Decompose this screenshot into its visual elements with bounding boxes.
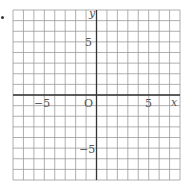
y-tick-label-pos5: 5 <box>85 36 92 49</box>
x-tick-label-neg5: −5 <box>34 97 50 110</box>
y-axis-label: y <box>88 7 96 20</box>
y-tick-label-neg5: −5 <box>79 143 95 156</box>
origin-label: O <box>84 97 93 110</box>
coordinate-grid: y x O −5 5 5 −5 <box>0 0 188 190</box>
x-axis-label: x <box>171 96 178 109</box>
x-tick-label-pos5: 5 <box>145 97 152 110</box>
axes <box>13 10 180 180</box>
